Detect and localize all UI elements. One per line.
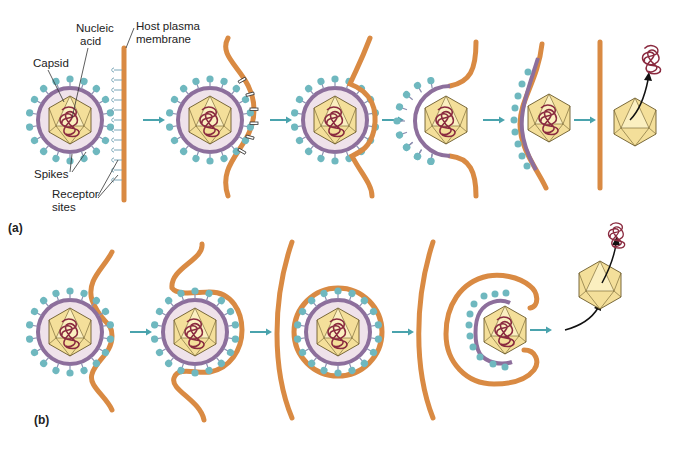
host-plasma-membrane xyxy=(112,48,124,200)
step-a6-uncoating xyxy=(600,42,661,188)
step-a3-fusion xyxy=(290,38,379,196)
label-capsid: Capsid xyxy=(33,57,69,69)
panel-label-b: (b) xyxy=(34,413,49,427)
step-b3-endosome xyxy=(277,242,383,418)
viral-entry-diagram: Nucleic acid Capsid Host plasma membrane… xyxy=(0,0,692,454)
step-a2-attachment xyxy=(165,38,258,196)
step-a1-virus xyxy=(25,75,114,164)
step-b2-invagination xyxy=(150,244,242,420)
panel-a: Nucleic acid Capsid Host plasma membrane… xyxy=(8,20,661,235)
step-b5-uncoating xyxy=(565,223,625,330)
step-b4-envelope-fusion xyxy=(419,242,537,418)
svg-text:sites: sites xyxy=(52,201,76,213)
step-b1-attachment xyxy=(25,252,114,410)
label-receptor-sites: Receptor xyxy=(52,188,99,200)
label-nucleic-acid: Nucleic xyxy=(76,22,114,34)
step-a4-fusion-open xyxy=(393,42,476,196)
label-host-plasma-membrane: Host plasma xyxy=(136,20,201,32)
label-spikes: Spikes xyxy=(34,168,69,180)
panel-b: (b) xyxy=(25,223,624,427)
svg-text:membrane: membrane xyxy=(136,33,191,45)
svg-text:acid: acid xyxy=(80,35,101,47)
panel-label-a: (a) xyxy=(8,221,23,235)
step-a5-capsid-release xyxy=(511,44,571,188)
receptor-sites xyxy=(112,68,122,182)
